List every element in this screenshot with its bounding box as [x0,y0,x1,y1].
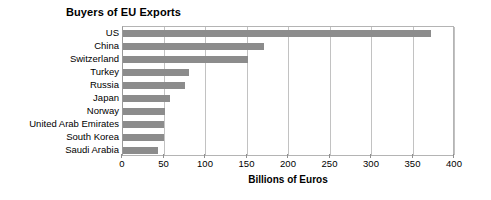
bar-row [123,118,453,131]
y-axis-label: Norway [1,106,119,116]
gridline [454,27,455,155]
x-axis-tick-label: 350 [405,158,421,169]
x-axis-tick-label: 50 [158,158,169,169]
x-axis-tick-label: 250 [322,158,338,169]
bar [123,108,165,115]
x-axis-tick-labels: 050100150200250300350400 [0,158,491,172]
bar-row [123,66,453,79]
y-axis-label: Turkey [1,67,119,77]
x-axis-tick-mark [412,154,413,158]
x-axis-tick-mark [329,154,330,158]
x-axis-tick-mark [287,154,288,158]
chart-title: Buyers of EU Exports [66,6,181,18]
bar [123,121,164,128]
x-axis-tick-label: 0 [119,158,124,169]
y-axis-category-labels: USChinaSwitzerlandTurkeyRussiaJapanNorwa… [0,26,119,156]
y-axis-label: US [1,28,119,38]
x-axis-tick-mark [453,154,454,158]
bar-chart-figure: Buyers of EU Exports USChinaSwitzerlandT… [0,0,491,200]
bar-row [123,105,453,118]
bar-row [123,53,453,66]
bar [123,30,431,37]
x-axis-tick-mark [121,154,122,158]
y-axis-label: Saudi Arabia [1,145,119,155]
y-axis-label: Japan [1,93,119,103]
bars-layer [123,27,453,155]
bar [123,95,170,102]
x-axis-title: Billions of Euros [122,174,454,185]
y-axis-label: Switzerland [1,54,119,64]
x-axis-tick-label: 150 [239,158,255,169]
x-axis-tick-label: 100 [197,158,213,169]
x-axis-tick-label: 300 [363,158,379,169]
x-axis-tick-mark [370,154,371,158]
bar [123,147,158,154]
x-axis-tick-mark [163,154,164,158]
x-axis-tick-label: 400 [446,158,462,169]
y-axis-label: South Korea [1,132,119,142]
bar-row [123,131,453,144]
bar-row [123,79,453,92]
x-axis-tick-mark [204,154,205,158]
bar [123,56,248,63]
x-axis-tick-mark [246,154,247,158]
bar [123,43,264,50]
bar [123,82,185,89]
bar [123,134,164,141]
bar [123,69,189,76]
y-axis-label: United Arab Emirates [1,119,119,129]
y-axis-label: China [1,41,119,51]
x-axis-tick-label: 200 [280,158,296,169]
bar-row [123,92,453,105]
y-axis-label: Russia [1,80,119,90]
bar-row [123,27,453,40]
bar-row [123,144,453,157]
bar-row [123,40,453,53]
plot-area [122,26,454,156]
